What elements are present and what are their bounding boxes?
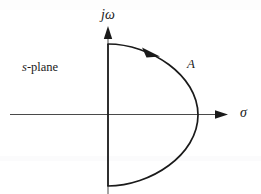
scan-artifact-band	[0, 156, 261, 161]
real-axis-arrowhead-icon	[215, 110, 228, 119]
contour-diagram-canvas	[0, 0, 261, 194]
contour-label-a: A	[187, 57, 195, 70]
s-plane-figure: jω σ s-plane A	[0, 0, 261, 194]
imaginary-axis-label: jω	[101, 8, 115, 22]
real-axis-label: σ	[240, 106, 247, 120]
s-plane-label-suffix: -plane	[27, 60, 58, 74]
imaginary-axis-arrowhead-icon	[104, 26, 112, 39]
contour-direction-arrowhead-icon	[142, 48, 160, 58]
scan-artifact-top	[0, 0, 261, 10]
s-plane-label: s-plane	[22, 61, 58, 74]
real-axis	[10, 110, 228, 119]
